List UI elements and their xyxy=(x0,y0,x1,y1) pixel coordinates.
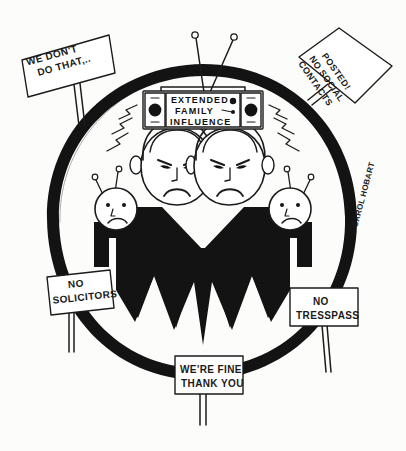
radio-label-line3: INFLUENCE xyxy=(170,117,231,127)
sign-text-line1: NO xyxy=(67,277,84,290)
sign-text-line2: THANK YOU xyxy=(181,378,244,389)
sign-text-line1: WE'RE FINE xyxy=(180,364,242,375)
sign-text-line2: TRESSPASS xyxy=(296,310,359,321)
radio-label-line2: FAMILY xyxy=(175,106,214,116)
radio-label-line1: EXTENDED xyxy=(171,95,229,105)
sign-text-line1: NO xyxy=(313,296,329,307)
cartoon-canvas: EXTENDED FAMILY INFLUENCE xyxy=(0,0,406,451)
